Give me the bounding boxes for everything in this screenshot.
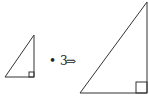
implies-arrow: ⇒ bbox=[66, 55, 76, 67]
large-right-angle-mark bbox=[136, 82, 147, 93]
large-triangle bbox=[80, 2, 147, 93]
diagram-canvas bbox=[0, 0, 149, 104]
small-right-angle-mark bbox=[29, 72, 34, 77]
small-triangle bbox=[5, 35, 34, 77]
scale-operator: • 3 bbox=[49, 55, 68, 67]
